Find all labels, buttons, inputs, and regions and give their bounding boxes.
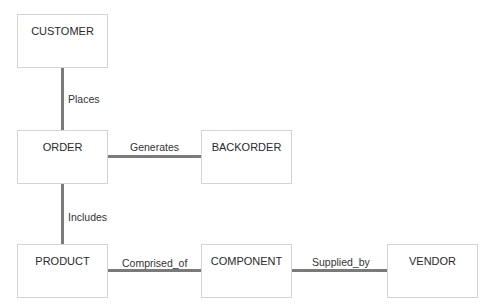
entity-customer: CUSTOMER	[17, 14, 108, 68]
comprised-of-connector	[107, 269, 201, 272]
supplied-by-connector	[292, 269, 387, 272]
supplied-by-label: Supplied_by	[312, 256, 370, 268]
comprised-of-label: Comprised_of	[122, 257, 187, 269]
entity-product: PRODUCT	[17, 244, 108, 298]
generates-connector	[107, 155, 201, 158]
includes-label: Includes	[68, 211, 107, 223]
entity-order: ORDER	[17, 130, 108, 184]
entity-component: COMPONENT	[201, 244, 292, 298]
places-connector	[61, 68, 64, 130]
generates-label: Generates	[130, 141, 179, 153]
places-label: Places	[68, 93, 100, 105]
includes-connector	[61, 183, 64, 244]
entity-backorder: BACKORDER	[201, 130, 292, 184]
entity-vendor: VENDOR	[387, 244, 478, 298]
